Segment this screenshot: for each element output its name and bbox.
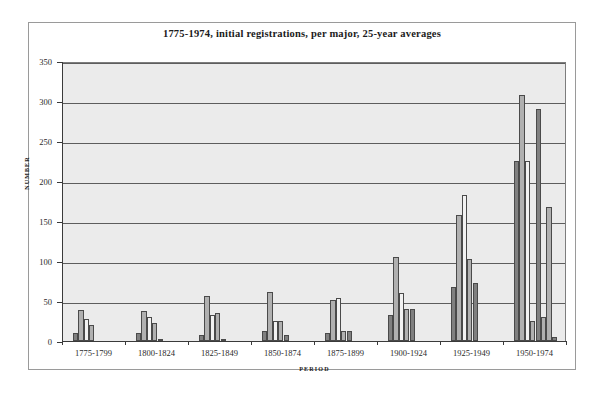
x-tick-mark <box>251 341 252 345</box>
bar <box>536 109 541 341</box>
plot-area <box>62 62 566 342</box>
bar <box>546 207 551 341</box>
chart-title: 1775-1974, initial registrations, per ma… <box>28 28 576 39</box>
bar <box>410 309 415 341</box>
y-tick-mark <box>57 102 62 103</box>
x-tick-label: 1775-1799 <box>62 348 125 358</box>
x-tick-label: 1875-1899 <box>314 348 377 358</box>
y-tick-label: 200 <box>24 178 52 187</box>
y-tick-label: 50 <box>24 298 52 307</box>
y-tick-mark <box>57 182 62 183</box>
gridline <box>63 63 565 64</box>
y-tick-label: 350 <box>24 58 52 67</box>
x-tick-label: 1925-1949 <box>440 348 503 358</box>
y-tick-label: 100 <box>24 258 52 267</box>
chart-figure: 1775-1974, initial registrations, per ma… <box>0 0 602 394</box>
x-axis-tick-labels: 1775-17991800-18241825-18491850-18741875… <box>62 348 567 362</box>
plot-wrapper <box>62 62 566 342</box>
y-tick-label: 300 <box>24 98 52 107</box>
x-tick-label: 1900-1924 <box>377 348 440 358</box>
x-tick-mark <box>440 341 441 345</box>
y-tick-mark <box>57 62 62 63</box>
bar <box>473 283 478 341</box>
x-tick-mark <box>125 341 126 345</box>
gridline <box>63 303 565 304</box>
x-tick-mark <box>566 341 567 345</box>
y-tick-label: 0 <box>24 338 52 347</box>
gridline <box>63 263 565 264</box>
gridline <box>63 103 565 104</box>
x-tick-mark <box>314 341 315 345</box>
bar <box>347 331 352 341</box>
y-tick-mark <box>57 142 62 143</box>
gridline <box>63 183 565 184</box>
x-tick-mark <box>188 341 189 345</box>
x-tick-mark <box>377 341 378 345</box>
bar <box>525 161 530 341</box>
bar <box>89 325 94 341</box>
x-tick-label: 1800-1824 <box>125 348 188 358</box>
x-tick-label: 1950-1974 <box>503 348 566 358</box>
y-tick-label: 250 <box>24 138 52 147</box>
x-tick-mark <box>503 341 504 345</box>
x-axis-title: PERIOD <box>62 366 567 372</box>
y-axis-line <box>62 62 63 342</box>
gridline <box>63 223 565 224</box>
x-tick-label: 1825-1849 <box>188 348 251 358</box>
gridline <box>63 143 565 144</box>
y-tick-mark <box>57 262 62 263</box>
y-axis-tick-labels: 050100150200250300350 <box>22 0 52 394</box>
y-tick-label: 150 <box>24 218 52 227</box>
x-tick-mark <box>62 341 63 345</box>
bar <box>215 313 220 341</box>
x-tick-label: 1850-1874 <box>251 348 314 358</box>
y-tick-mark <box>57 302 62 303</box>
y-tick-mark <box>57 222 62 223</box>
